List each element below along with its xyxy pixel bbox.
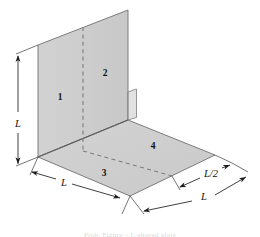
ext-line-depth-end — [122, 196, 130, 214]
dim-label-half-right: L/2 — [203, 168, 219, 179]
plate-body — [38, 10, 215, 196]
figure-container: 1 2 3 4 L L L/2 — [0, 0, 260, 237]
region-label-4: 4 — [151, 141, 156, 151]
dimension-height-left: L — [14, 45, 38, 166]
figure-caption: Prob. Figure – L-shaped plate — [0, 231, 260, 237]
dim-line-width-left — [144, 201, 192, 211]
lshaped-plate-diagram: 1 2 3 4 L L L/2 — [0, 0, 260, 237]
dim-line-half-left — [180, 178, 200, 187]
dim-line-width-right — [215, 177, 246, 195]
ext-line-width-start — [130, 196, 144, 214]
wall-edge-flange — [128, 89, 137, 120]
ext-line-half-start — [172, 176, 180, 190]
dim-label-width-bottom-right: L — [200, 191, 207, 202]
dim-label-depth-bottom-left: L — [60, 177, 67, 188]
ext-line-top-left — [16, 45, 38, 54]
dim-label-height-left: L — [14, 118, 21, 129]
ext-line-width-end — [232, 163, 248, 172]
region-label-2: 2 — [103, 68, 108, 78]
ext-line-half-end — [215, 155, 232, 163]
dim-line-half-right — [222, 165, 230, 168]
region-label-1: 1 — [58, 92, 63, 102]
dim-line-depth-upper — [32, 172, 56, 179]
region-label-3: 3 — [102, 168, 107, 178]
